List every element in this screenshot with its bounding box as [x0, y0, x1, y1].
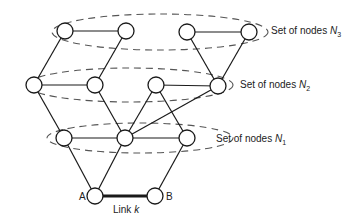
node-n3d: [241, 24, 257, 40]
edge-n1a-A: [64, 138, 95, 196]
edge-n2d-n1b: [125, 86, 218, 138]
node-n1a: [56, 130, 72, 146]
node-n3b: [118, 23, 134, 39]
node-n2d: [210, 78, 226, 94]
node-n1b: [117, 130, 133, 146]
node-a: [87, 188, 103, 204]
node-n3c: [179, 24, 195, 40]
edge-n3c-n2d: [187, 32, 218, 86]
edge-n2c-n1b: [125, 85, 156, 138]
edge-n1c-B: [155, 138, 187, 196]
edge-n3d-n2d: [218, 32, 249, 86]
edge-n2b-n1b: [95, 85, 125, 138]
node-n2c: [148, 77, 164, 93]
network-edges: [34, 31, 249, 196]
network-nodes: [26, 23, 257, 204]
node-set-label-n2: Set of nodes N2: [240, 79, 310, 92]
node-label-b: B: [166, 191, 173, 202]
network-diagram: Set of nodes N3Set of nodes N2Set of nod…: [0, 0, 350, 214]
edge-n3a-n2a: [34, 31, 65, 85]
node-n2a: [26, 77, 42, 93]
node-label-a: A: [79, 191, 86, 202]
edge-n2a-n1a: [34, 85, 64, 138]
diagram-labels: Set of nodes N3Set of nodes N2Set of nod…: [79, 25, 341, 214]
node-set-label-n3: Set of nodes N3: [271, 25, 341, 38]
edge-n2c-n2d: [156, 85, 218, 86]
link-k-label: Link k: [113, 204, 140, 214]
node-n3a: [57, 23, 73, 39]
node-n1c: [179, 130, 195, 146]
node-set-label-n1: Set of nodes N1: [216, 133, 286, 146]
edge-n1b-A: [95, 138, 125, 196]
node-n2b: [87, 77, 103, 93]
edge-n3b-n2b: [95, 31, 126, 85]
node-b: [147, 188, 163, 204]
